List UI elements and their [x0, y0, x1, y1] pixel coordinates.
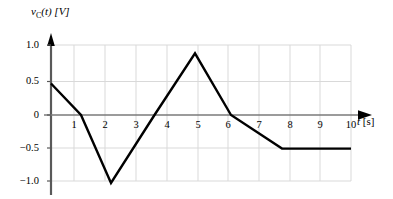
x-tick-label-3: 3 [130, 120, 142, 131]
x-tick-label-8: 8 [284, 120, 296, 131]
chart-figure: vC(t) [V] t [s] 1.0 0.5 0 −0.5 −1.0 1 2 … [0, 0, 393, 199]
y-axis [47, 33, 55, 195]
x-tick-label-10: 10 [343, 120, 359, 131]
voltage-waveform-plot [0, 0, 393, 199]
y-tick-label-1: 1.0 [5, 40, 39, 51]
y-axis-title: vC(t) [V] [31, 6, 70, 20]
x-tick-label-6: 6 [222, 120, 234, 131]
waveform-curve [51, 53, 351, 183]
x-tick-label-9: 9 [314, 120, 326, 131]
x-tick-label-2: 2 [99, 120, 111, 131]
x-axis-title-unit: [s] [360, 115, 374, 127]
y-axis-title-rest: (t) [V] [41, 5, 69, 17]
y-tick-label-4: −0.5 [5, 143, 39, 154]
x-axis-title: t [s] [357, 116, 374, 127]
x-tick-label-1: 1 [68, 120, 80, 131]
y-tick-label-3: 0 [5, 110, 39, 121]
y-tick-label-5: −1.0 [5, 176, 39, 187]
y-tick-label-2: 0.5 [5, 76, 39, 87]
x-tick-label-5: 5 [192, 120, 204, 131]
x-tick-label-7: 7 [253, 120, 265, 131]
x-tick-label-4: 4 [161, 120, 173, 131]
x-axis [44, 110, 372, 120]
